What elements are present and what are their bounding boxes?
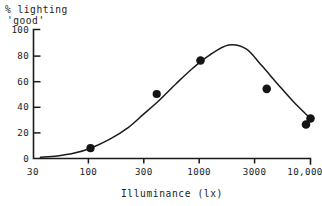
data-point-400lx xyxy=(196,56,205,65)
fitted-curve xyxy=(40,45,310,158)
y-tick-label-80: 80 xyxy=(17,50,29,61)
chart-figure: % lighting 'good' 100 80 60 40 20 0 xyxy=(0,0,322,206)
y-tick-label-100: 100 xyxy=(12,24,30,35)
x-tick-label-30: 30 xyxy=(27,166,39,177)
x-tick-label-100: 100 xyxy=(80,166,98,177)
y-tick-label-20: 20 xyxy=(17,127,29,138)
x-axis-tick-labels: 30 100 300 1000 3000 10,000 xyxy=(27,166,322,177)
x-axis-title: Illuminance (lx) xyxy=(121,188,223,199)
y-axis-title-line-1: % lighting xyxy=(5,4,68,15)
data-point-markers xyxy=(86,56,314,152)
x-tick-label-300: 300 xyxy=(135,166,153,177)
data-point-100lx xyxy=(153,90,161,98)
data-point-50lx xyxy=(86,144,94,152)
y-axis-tick-labels: 100 80 60 40 20 0 xyxy=(12,24,30,164)
chart-svg: % lighting 'good' 100 80 60 40 20 0 xyxy=(0,0,322,206)
x-tick-label-10000: 10,000 xyxy=(287,166,322,177)
y-axis-ticks xyxy=(34,56,41,133)
x-tick-label-1000: 1000 xyxy=(187,166,211,177)
x-tick-label-3000: 3000 xyxy=(243,166,267,177)
y-tick-label-40: 40 xyxy=(17,101,29,112)
y-tick-label-60: 60 xyxy=(17,76,29,87)
axis-frame xyxy=(34,30,311,165)
y-tick-label-0: 0 xyxy=(23,153,29,164)
data-point-10000lx xyxy=(302,120,311,129)
data-point-1000lx xyxy=(262,85,271,94)
